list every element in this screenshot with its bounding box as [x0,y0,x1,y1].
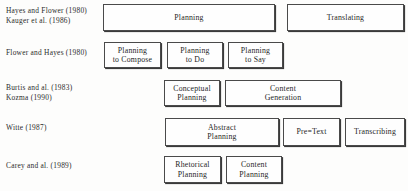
model-label-row-3: Burtis and al. (1983)Kozma (1990) [6,83,72,102]
stage-box-label: Planning to Say [239,46,272,65]
model-label-row-2: Flower and Hayes (1980) [6,48,87,58]
stage-box-label: Planning [172,13,205,22]
stage-box-planning-to-say[interactable]: Planning to Say [228,42,283,68]
model-label-row-4: Witte (1987) [6,123,47,133]
model-label-line: Burtis and al. (1983) [6,83,72,93]
model-label-line: Hayes and Flower (1980) [6,6,87,16]
stage-box-content-planning[interactable]: Content Planning [226,156,282,183]
model-label-row-5: Carey and al. (1989) [6,161,72,171]
stage-box-rhetorical-planning[interactable]: Rhetorical Planning [164,156,221,183]
stage-box-transcribing[interactable]: Transcribing [345,118,405,146]
stage-box-label: Conceptual Planning [171,84,213,103]
stage-box-planning-to-do[interactable]: Planning to Do [167,42,223,68]
model-label-line: Carey and al. (1989) [6,161,72,171]
model-label-line: Witte (1987) [6,123,47,133]
stage-box-abstract-planning[interactable]: Abstract Planning [165,118,279,146]
stage-box-label: Planning to Do [178,46,211,65]
stage-box-translating[interactable]: Translating [287,4,404,31]
stage-box-label: Content Planning [237,160,270,179]
stage-box-planning-to-compose[interactable]: Planning to Compose [104,42,161,68]
stage-box-label: Translating [325,13,366,22]
model-label-row-1: Hayes and Flower (1980)Kauger et al. (19… [6,6,87,25]
stage-box-label: Rhetorical Planning [173,160,211,179]
diagram-canvas: Hayes and Flower (1980)Kauger et al. (19… [0,0,408,191]
stage-box-pre-text[interactable]: Pre=Text [283,118,340,146]
model-label-line: Kozma (1990) [6,93,72,103]
stage-box-conceptual-planning[interactable]: Conceptual Planning [164,80,220,106]
stage-box-label: Transcribing [352,127,398,136]
model-label-line: Kauger et al. (1986) [6,16,87,26]
stage-box-label: Planning to Compose [111,46,154,65]
stage-box-content-generation[interactable]: Content Generation [225,80,341,106]
stage-box-label: Pre=Text [294,127,328,136]
model-label-line: Flower and Hayes (1980) [6,48,87,58]
stage-box-planning[interactable]: Planning [103,4,275,31]
stage-box-label: Content Generation [263,84,304,103]
stage-box-label: Abstract Planning [205,123,238,142]
